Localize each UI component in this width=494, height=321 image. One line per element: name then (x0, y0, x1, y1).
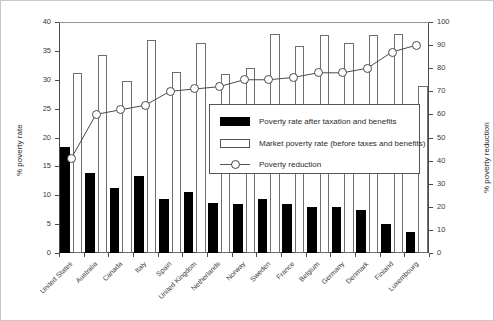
y-tick-right (429, 45, 433, 46)
chart-legend: Poverty rate after taxation and benefits… (209, 104, 420, 174)
y-tick-right (429, 91, 433, 92)
y-tick-left (55, 80, 59, 81)
y-tick-right (429, 22, 433, 23)
legend-item-poverty-reduction: Poverty reduction (220, 157, 321, 171)
y-axis-left-title: % poverty rate (15, 124, 24, 176)
y-tick-label-right: 80 (437, 64, 445, 72)
y-tick-label-left: 25 (33, 105, 51, 113)
x-tick (108, 253, 109, 257)
y-tick-left (55, 138, 59, 139)
x-tick (232, 253, 233, 257)
y-tick-right (429, 161, 433, 162)
y-tick-label-right: 30 (437, 180, 445, 188)
line-marker (166, 87, 175, 96)
legend-label: Poverty reduction (259, 160, 321, 169)
y-tick-left (55, 195, 59, 196)
y-tick-label-right: 60 (437, 110, 445, 118)
y-tick-label-right: 90 (437, 41, 445, 49)
y-tick-left (55, 224, 59, 225)
legend-label: Poverty rate after taxation and benefits (259, 117, 396, 126)
y-tick-right (429, 230, 433, 231)
chart-figure: 0510152025303540 0102030405060708090100 … (0, 0, 494, 321)
y-axis-right-title: % poverty reduction (482, 122, 491, 193)
y-tick-label-left: 5 (33, 220, 51, 228)
line-marker (412, 41, 421, 50)
y-tick-label-right: 10 (437, 226, 445, 234)
y-tick-label-left: 40 (33, 18, 51, 26)
y-tick-label-right: 20 (437, 203, 445, 211)
x-tick (429, 253, 430, 257)
y-tick-left (55, 109, 59, 110)
x-tick (281, 253, 282, 257)
y-tick-label-right: 0 (437, 249, 441, 257)
line-marker (363, 64, 372, 73)
line-marker (67, 154, 76, 163)
y-tick-left (55, 166, 59, 167)
y-tick-left (55, 51, 59, 52)
y-tick-label-right: 70 (437, 87, 445, 95)
x-tick (306, 253, 307, 257)
y-tick-right (429, 114, 433, 115)
line-marker (215, 82, 224, 91)
y-tick-label-right: 50 (437, 134, 445, 142)
x-tick (158, 253, 159, 257)
y-tick-label-right: 40 (437, 157, 445, 165)
x-tick (59, 253, 60, 257)
line-marker (388, 48, 397, 57)
x-tick (182, 253, 183, 257)
x-tick (84, 253, 85, 257)
legend-label: Market poverty rate (before taxes and be… (259, 139, 425, 148)
line-marker (240, 75, 249, 84)
y-tick-label-left: 0 (33, 249, 51, 257)
y-tick-label-left: 15 (33, 162, 51, 170)
white-bar-icon (220, 139, 250, 148)
x-tick (404, 253, 405, 257)
y-tick-label-left: 10 (33, 191, 51, 199)
y-tick-right (429, 184, 433, 185)
legend-item-poverty-after: Poverty rate after taxation and benefits (220, 114, 396, 128)
y-tick-label-left: 30 (33, 76, 51, 84)
black-bar-icon (220, 117, 250, 126)
y-tick-right (429, 207, 433, 208)
y-tick-label-right: 100 (437, 18, 450, 26)
line-marker (92, 110, 101, 119)
x-tick (133, 253, 134, 257)
y-tick-left (55, 22, 59, 23)
x-tick (207, 253, 208, 257)
y-tick-right (429, 138, 433, 139)
x-tick (380, 253, 381, 257)
y-tick-right (429, 68, 433, 69)
line-marker (289, 73, 298, 82)
y-tick-label-left: 35 (33, 47, 51, 55)
x-tick (355, 253, 356, 257)
line-marker (314, 68, 323, 77)
legend-item-market-poverty: Market poverty rate (before taxes and be… (220, 136, 425, 150)
y-tick-label-left: 20 (33, 134, 51, 142)
x-tick (330, 253, 331, 257)
x-tick (256, 253, 257, 257)
line-marker-icon (220, 160, 250, 169)
line-marker (141, 101, 150, 110)
